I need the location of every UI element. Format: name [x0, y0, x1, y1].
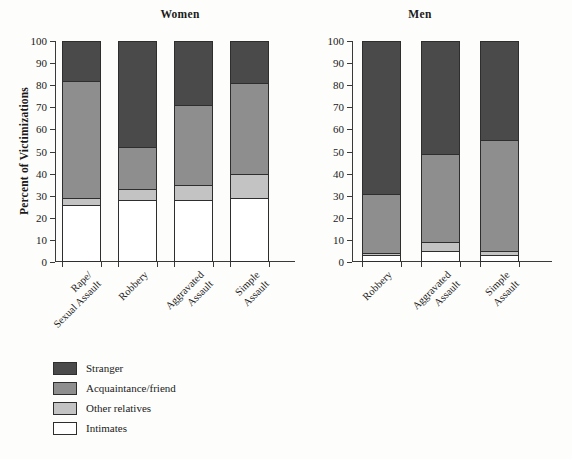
chart-legend: StrangerAcquaintance/friendOther relativ… — [53, 358, 176, 438]
x-axis-tick — [269, 262, 270, 267]
y-axis-tick-label: 90 — [17, 63, 47, 64]
y-axis-tick-label: 60 — [17, 129, 47, 130]
bar-segment-other-relatives[interactable] — [230, 174, 269, 198]
y-axis-tick — [50, 41, 55, 42]
x-axis-tick — [174, 262, 175, 267]
legend-item[interactable]: Stranger — [53, 358, 176, 378]
bar-segment-intimates[interactable] — [362, 255, 401, 262]
legend-swatch-icon — [53, 382, 77, 395]
stacked-bar[interactable] — [62, 41, 101, 262]
y-axis-tick-label: 20 — [17, 218, 47, 219]
bar-segment-acquaintance-friend[interactable] — [174, 105, 213, 185]
plot-area-men: 0102030405060708090100RobberyAggravated … — [352, 41, 552, 262]
y-axis-tick — [347, 262, 352, 263]
bar-segment-stranger[interactable] — [362, 41, 401, 193]
bar-segment-stranger[interactable] — [118, 41, 157, 147]
x-axis-tick — [401, 262, 402, 267]
bar-segment-other-relatives[interactable] — [62, 198, 101, 205]
legend-item[interactable]: Acquaintance/friend — [53, 378, 176, 398]
x-axis-tick — [62, 262, 63, 267]
bar-segment-intimates[interactable] — [118, 200, 157, 262]
stacked-bar[interactable] — [174, 41, 213, 262]
y-axis-tick-label: 30 — [17, 196, 47, 197]
y-axis-tick — [347, 85, 352, 86]
bar-segment-intimates[interactable] — [62, 205, 101, 262]
y-axis-tick-label: 0 — [17, 262, 47, 263]
bar-segment-other-relatives[interactable] — [421, 242, 460, 251]
legend-item[interactable]: Other relatives — [53, 398, 176, 418]
bar-segment-stranger[interactable] — [174, 41, 213, 105]
bar-segment-intimates[interactable] — [230, 198, 269, 262]
y-axis-tick — [50, 63, 55, 64]
legend-label: Other relatives — [86, 402, 151, 414]
y-axis-tick-label: 100 — [314, 41, 344, 42]
bar-segment-stranger[interactable] — [421, 41, 460, 154]
stacked-bar[interactable] — [362, 41, 401, 262]
y-axis-tick — [50, 262, 55, 263]
y-axis-tick — [347, 63, 352, 64]
y-axis-tick-label: 40 — [314, 174, 344, 175]
y-axis-tick — [50, 152, 55, 153]
bar-segment-stranger[interactable] — [62, 41, 101, 81]
legend-label: Acquaintance/friend — [86, 382, 176, 394]
legend-label: Stranger — [86, 362, 123, 374]
bar-segment-acquaintance-friend[interactable] — [362, 194, 401, 254]
bar-segment-other-relatives[interactable] — [118, 189, 157, 200]
y-axis-tick — [347, 218, 352, 219]
y-axis-tick — [347, 174, 352, 175]
bar-segment-other-relatives[interactable] — [174, 185, 213, 200]
legend-swatch-icon — [53, 402, 77, 415]
y-axis-line-men — [352, 41, 353, 262]
y-axis-tick-label: 40 — [17, 174, 47, 175]
y-axis-tick — [50, 196, 55, 197]
panel-title-women: Women — [110, 8, 250, 20]
bar-segment-acquaintance-friend[interactable] — [421, 154, 460, 242]
y-axis-tick-label: 70 — [17, 107, 47, 108]
x-axis-category-label: Rape/ Sexual Assault — [1, 269, 104, 372]
bar-segment-acquaintance-friend[interactable] — [118, 147, 157, 189]
y-axis-tick — [347, 152, 352, 153]
x-axis-tick — [460, 262, 461, 267]
y-axis-tick — [347, 196, 352, 197]
stacked-bar[interactable] — [480, 41, 519, 262]
bar-segment-acquaintance-friend[interactable] — [480, 140, 519, 251]
legend-label: Intimates — [86, 422, 127, 434]
x-axis-tick — [101, 262, 102, 267]
chart-canvas: Percent of Victimizations Women Men 0102… — [0, 0, 572, 459]
x-axis-tick — [362, 262, 363, 267]
x-axis-tick — [118, 262, 119, 267]
bar-segment-other-relatives[interactable] — [480, 251, 519, 255]
y-axis-tick — [347, 240, 352, 241]
legend-item[interactable]: Intimates — [53, 418, 176, 438]
y-axis-tick — [347, 129, 352, 130]
y-axis-tick — [50, 174, 55, 175]
y-axis-tick-label: 90 — [314, 63, 344, 64]
legend-swatch-icon — [53, 362, 77, 375]
y-axis-tick-label: 50 — [314, 152, 344, 153]
y-axis-tick-label: 80 — [17, 85, 47, 86]
stacked-bar[interactable] — [118, 41, 157, 262]
bar-segment-acquaintance-friend[interactable] — [62, 81, 101, 198]
bar-segment-intimates[interactable] — [421, 251, 460, 262]
x-axis-tick — [519, 262, 520, 267]
y-axis-tick-label: 100 — [17, 41, 47, 42]
y-axis-tick — [50, 85, 55, 86]
bar-segment-other-relatives[interactable] — [362, 253, 401, 255]
bar-segment-acquaintance-friend[interactable] — [230, 83, 269, 174]
x-axis-tick — [213, 262, 214, 267]
y-axis-tick — [50, 129, 55, 130]
bar-segment-stranger[interactable] — [480, 41, 519, 140]
y-axis-tick-label: 30 — [314, 196, 344, 197]
bar-segment-intimates[interactable] — [174, 200, 213, 262]
y-axis-tick-label: 60 — [314, 129, 344, 130]
y-axis-tick-label: 70 — [314, 107, 344, 108]
y-axis-tick — [50, 218, 55, 219]
y-axis-tick-label: 20 — [314, 218, 344, 219]
x-axis-tick — [480, 262, 481, 267]
y-axis-line-women — [55, 41, 56, 262]
bar-segment-intimates[interactable] — [480, 255, 519, 262]
y-axis-tick-label: 50 — [17, 152, 47, 153]
stacked-bar[interactable] — [421, 41, 460, 262]
stacked-bar[interactable] — [230, 41, 269, 262]
bar-segment-stranger[interactable] — [230, 41, 269, 83]
